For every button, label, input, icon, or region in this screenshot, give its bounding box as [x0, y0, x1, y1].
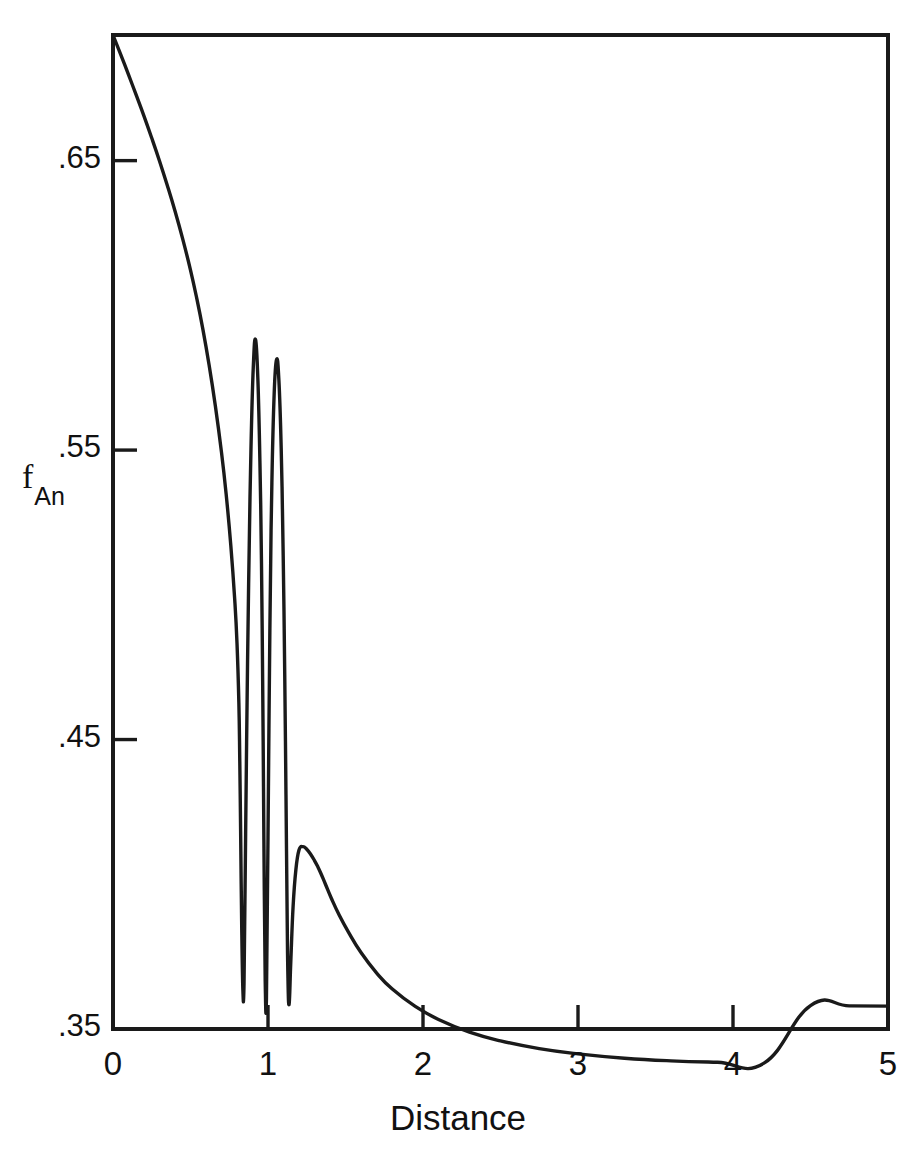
y-tick-label: .65 — [0, 140, 101, 176]
x-tick-label: 0 — [83, 1045, 143, 1083]
line-chart-plot — [0, 0, 916, 1171]
y-axis-label-subscript: An — [34, 482, 65, 510]
x-axis-ticks — [268, 1005, 733, 1029]
x-tick-label: 2 — [393, 1045, 453, 1083]
y-axis-ticks — [113, 161, 137, 740]
x-tick-label: 4 — [703, 1045, 763, 1083]
y-tick-label: .35 — [0, 1008, 101, 1044]
x-tick-label: 5 — [858, 1045, 916, 1083]
y-tick-label: .45 — [0, 719, 101, 755]
x-tick-label: 3 — [548, 1045, 608, 1083]
data-series-line — [113, 35, 888, 1069]
x-tick-label: 1 — [238, 1045, 298, 1083]
x-axis-label: Distance — [0, 1098, 916, 1138]
chart-figure: fAn Distance .35.45.55.65 012345 — [0, 0, 916, 1171]
y-tick-label: .55 — [0, 429, 101, 465]
